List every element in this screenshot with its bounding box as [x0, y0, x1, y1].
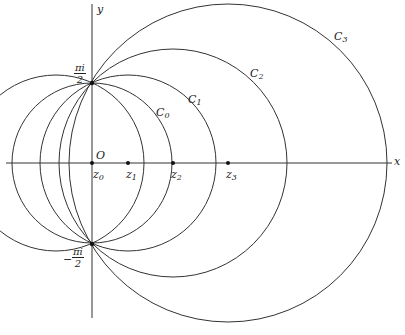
label-z0: z0 [93, 169, 104, 182]
label-c0: C0 [156, 107, 170, 120]
y-axis-label: y [97, 4, 103, 15]
point-z2 [171, 161, 175, 165]
label-c3: C3 [334, 31, 348, 44]
point-top [90, 81, 94, 85]
point-z1 [126, 161, 130, 165]
origin-label: O [96, 150, 105, 161]
label-z1: z1 [126, 169, 137, 182]
point-z0 [90, 161, 94, 165]
label-bottom-point: πi 2 [72, 246, 84, 269]
minus-sign: − [63, 254, 72, 265]
label-z3: z3 [226, 169, 237, 182]
label-c2: C2 [250, 68, 264, 81]
diagram-canvas [0, 0, 405, 335]
coaxal-circles-diagram: y x O πi 2 − πi 2 C0 C1 C2 C3 z0 z1 z2 z… [0, 0, 405, 335]
point-z3 [226, 161, 230, 165]
label-c1: C1 [188, 94, 202, 107]
point-bottom [90, 242, 94, 246]
label-z2: z2 [171, 169, 182, 182]
label-top-point: πi 2 [74, 62, 86, 85]
x-axis-label: x [394, 156, 400, 167]
